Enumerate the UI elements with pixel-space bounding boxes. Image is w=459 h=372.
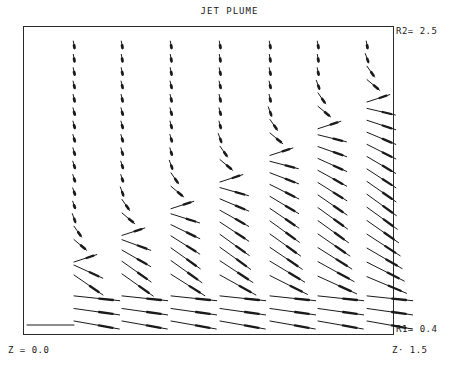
vector-arrow xyxy=(286,206,295,211)
vector-arrow xyxy=(178,192,182,195)
vector-arrow xyxy=(99,299,113,300)
vector-arrow xyxy=(289,273,299,279)
vector-arrow xyxy=(220,85,221,87)
vector-arrow xyxy=(325,112,329,115)
vector-arrow xyxy=(171,125,172,127)
vector-arrow xyxy=(383,152,392,156)
vector-arrow xyxy=(220,72,221,74)
vector-arrow xyxy=(238,273,248,280)
vector-arrow xyxy=(386,259,397,265)
vector-arrow xyxy=(87,256,94,258)
vector-arrow xyxy=(74,85,75,87)
vector-arrow xyxy=(135,229,142,231)
vector-arrow xyxy=(99,325,113,327)
vector-arrow xyxy=(188,273,197,280)
vector-arrow xyxy=(367,59,368,62)
vector-arrow xyxy=(236,219,245,224)
vector-arrow xyxy=(129,219,133,222)
vector-arrow xyxy=(384,219,393,226)
vector-arrow xyxy=(383,166,392,171)
vector-arrow xyxy=(122,139,123,141)
vector-arrow xyxy=(385,246,395,253)
vector-arrow xyxy=(334,139,343,141)
vector-arrow xyxy=(245,325,259,327)
vector-arrow xyxy=(220,112,221,114)
vector-arrow xyxy=(147,325,161,327)
vector-arrow xyxy=(287,246,296,253)
vector-arrow xyxy=(295,325,309,327)
vector-arrow xyxy=(236,246,245,252)
vector-arrow xyxy=(339,286,351,291)
vector-arrow xyxy=(274,126,276,129)
vector-arrow xyxy=(122,192,123,195)
vector-arrow xyxy=(122,85,123,87)
vector-arrow xyxy=(383,193,392,199)
vector-arrow xyxy=(295,312,309,314)
z-max-label: Z· 1.5 xyxy=(392,345,428,355)
vector-arrow xyxy=(122,165,123,167)
vector-arrow xyxy=(220,99,221,101)
vector-arrow xyxy=(171,139,172,141)
vector-arrow xyxy=(286,165,295,167)
vector-arrow xyxy=(383,139,392,143)
vector-arrow xyxy=(236,206,245,210)
vector-arrow xyxy=(196,325,210,327)
vector-arrow xyxy=(374,86,378,89)
vector-arrow xyxy=(138,259,147,264)
vector-arrow xyxy=(147,312,161,314)
vector-arrow xyxy=(74,99,75,101)
vector-arrow xyxy=(220,139,221,142)
vector-arrow xyxy=(122,179,123,181)
vector-arrow xyxy=(383,206,392,212)
vector-arrow xyxy=(74,179,75,181)
vector-arrow xyxy=(74,152,75,154)
vector-arrow xyxy=(220,125,221,127)
vector-arrow xyxy=(334,166,343,170)
vector-arrow xyxy=(343,325,357,327)
vector-arrow xyxy=(74,112,75,114)
vector-arrow xyxy=(81,246,85,249)
vector-arrow xyxy=(343,312,357,314)
vector-arrow xyxy=(122,112,123,114)
vector-arrow xyxy=(286,192,295,196)
vector-arrow xyxy=(171,166,172,169)
vector-arrow xyxy=(270,85,271,87)
vector-arrow xyxy=(286,179,295,182)
vector-arrow xyxy=(270,112,271,115)
vector-arrow xyxy=(90,272,99,276)
vector-arrow xyxy=(277,139,281,142)
vector-arrow xyxy=(286,219,295,225)
vector-arrow xyxy=(343,299,357,300)
vector-arrow xyxy=(187,246,196,251)
vector-arrow xyxy=(270,99,271,101)
vector-arrow xyxy=(224,152,226,155)
vector-arrow xyxy=(187,259,196,265)
vector-arrow xyxy=(383,179,392,185)
vector-arrow xyxy=(171,72,172,74)
vector-arrow xyxy=(171,112,172,114)
vector-arrow xyxy=(336,246,346,253)
vector-arrow xyxy=(384,233,394,240)
vector-arrow xyxy=(175,179,177,182)
vector-arrow xyxy=(99,312,113,314)
vector-arrow xyxy=(383,126,392,129)
vector-arrow xyxy=(334,193,343,198)
vector-arrow xyxy=(270,72,271,74)
r1-label: R1= 0.4 xyxy=(396,324,437,334)
vector-arrow xyxy=(122,72,123,74)
vector-arrow xyxy=(74,165,75,167)
vector-arrow xyxy=(237,259,246,266)
vector-arrow xyxy=(322,99,324,102)
vector-arrow xyxy=(383,112,392,114)
vector-arrow xyxy=(286,233,295,239)
vector-arrow xyxy=(196,312,210,314)
vector-arrow xyxy=(196,299,210,300)
vector-arrow xyxy=(236,233,245,239)
vector-arrow xyxy=(334,152,343,155)
vector-arrow xyxy=(283,149,290,151)
vector-arrow xyxy=(392,299,406,300)
vector-arrow xyxy=(295,299,309,300)
vector-arrow xyxy=(184,202,191,204)
vector-arrow xyxy=(337,259,347,265)
vector-arrow xyxy=(335,233,344,240)
